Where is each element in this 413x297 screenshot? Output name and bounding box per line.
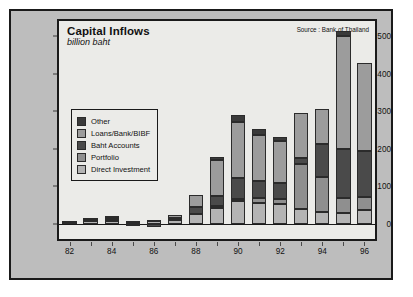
y-axis-tick-mark — [53, 223, 57, 224]
bar-segment — [252, 129, 266, 135]
bar-95 — [336, 21, 350, 239]
bar-segment — [315, 177, 329, 212]
bar-segment — [210, 196, 224, 205]
bar-segment — [357, 197, 371, 210]
chart-legend: OtherLoans/Bank/BIBFBaht AccountsPortfol… — [71, 109, 158, 181]
legend-swatch-icon — [77, 165, 86, 174]
bar-90 — [231, 21, 245, 239]
legend-item: Direct Investment — [77, 163, 150, 175]
bar-segment — [210, 160, 224, 196]
x-axis-tick-mark — [154, 242, 155, 246]
bar-segment — [189, 207, 203, 213]
bar-segment — [83, 218, 97, 220]
x-axis-tick-label: 96 — [360, 247, 369, 256]
bar-89 — [210, 21, 224, 239]
legend-swatch-icon — [77, 153, 86, 162]
bar-segment — [273, 137, 287, 142]
y-axis-tick-mark — [53, 73, 57, 74]
bar-segment — [231, 122, 245, 178]
bar-segment — [210, 157, 224, 160]
y-axis-tick-mark — [53, 148, 57, 149]
bar-segment — [336, 36, 350, 149]
legend-item: Other — [77, 115, 150, 127]
bar-segment — [273, 183, 287, 200]
legend-label: Portfolio — [91, 153, 119, 162]
bar-segment — [252, 198, 266, 203]
x-axis-tick-mark — [112, 242, 113, 246]
y-axis-tick-mark — [53, 36, 57, 37]
bar-segment — [336, 31, 350, 36]
x-axis-tick-label: 82 — [65, 247, 74, 256]
bar-segment — [252, 181, 266, 198]
bar-88 — [189, 21, 203, 239]
bar-93 — [294, 21, 308, 239]
bar-segment — [210, 208, 224, 224]
bar-segment — [294, 164, 308, 209]
bar-segment — [273, 199, 287, 204]
x-axis-tick-label: 92 — [276, 247, 285, 256]
x-axis-tick-mark — [280, 242, 281, 246]
y-axis-tick-label: 0 — [351, 219, 391, 228]
bar-94 — [315, 21, 329, 239]
x-axis-tick-mark — [343, 242, 344, 246]
bar-segment — [126, 224, 140, 226]
bar-segment — [231, 199, 245, 201]
x-axis-tick-mark — [238, 242, 239, 246]
y-axis-tick-label: 500 — [351, 32, 391, 41]
legend-swatch-icon — [77, 117, 86, 126]
x-axis-tick-mark — [70, 242, 71, 246]
figure-frame: Capital Inflows billion baht Source : Ba… — [9, 9, 393, 280]
chart-panel: Capital Inflows billion baht Source : Ba… — [57, 19, 377, 241]
bar-segment — [252, 203, 266, 224]
y-axis-tick-label: 300 — [351, 107, 391, 116]
bar-segment — [336, 198, 350, 213]
bar-96 — [357, 21, 371, 239]
y-axis-tick-label: 200 — [351, 144, 391, 153]
bar-segment — [231, 201, 245, 224]
bar-segment — [168, 220, 182, 224]
x-axis-tick-label: 90 — [234, 247, 243, 256]
bar-segment — [105, 220, 119, 222]
x-axis-tick-mark — [196, 242, 197, 246]
bar-segment — [315, 144, 329, 177]
x-axis-tick-label: 88 — [191, 247, 200, 256]
bar-segment — [168, 215, 182, 217]
x-axis-tick-mark — [217, 242, 218, 246]
bar-segment — [189, 195, 203, 207]
bar-87 — [168, 21, 182, 239]
y-axis-tick-label: 100 — [351, 182, 391, 191]
x-axis-tick-mark — [91, 242, 92, 246]
x-axis-tick-label: 84 — [107, 247, 116, 256]
y-axis-tick-mark — [53, 186, 57, 187]
legend-swatch-icon — [77, 129, 86, 138]
bar-segment — [231, 178, 245, 199]
legend-swatch-icon — [77, 141, 86, 150]
bar-segment — [252, 135, 266, 181]
bar-segment — [273, 204, 287, 224]
legend-label: Direct Investment — [91, 165, 150, 174]
x-axis-tick-mark — [364, 242, 365, 246]
bar-segment — [336, 149, 350, 198]
y-axis-tick-label: 400 — [351, 69, 391, 78]
bar-segment — [315, 212, 329, 224]
x-axis-tick-label: 86 — [149, 247, 158, 256]
bar-segment — [105, 216, 119, 218]
legend-item: Loans/Bank/BIBF — [77, 127, 150, 139]
legend-label: Baht Accounts — [91, 141, 140, 150]
bar-segment — [189, 214, 203, 224]
x-axis-tick-label: 94 — [318, 247, 327, 256]
x-axis-tick-mark — [301, 242, 302, 246]
bar-segment — [336, 213, 350, 224]
bar-segment — [147, 224, 161, 227]
legend-label: Loans/Bank/BIBF — [91, 129, 150, 138]
x-axis-tick-mark — [175, 242, 176, 246]
bar-segment — [273, 141, 287, 182]
bar-92 — [273, 21, 287, 239]
bar-segment — [105, 218, 119, 220]
bar-segment — [294, 158, 308, 164]
bar-segment — [62, 221, 76, 223]
bar-segment — [147, 220, 161, 222]
x-axis-tick-mark — [259, 242, 260, 246]
x-axis-tick-mark — [133, 242, 134, 246]
bar-segment — [294, 209, 308, 224]
